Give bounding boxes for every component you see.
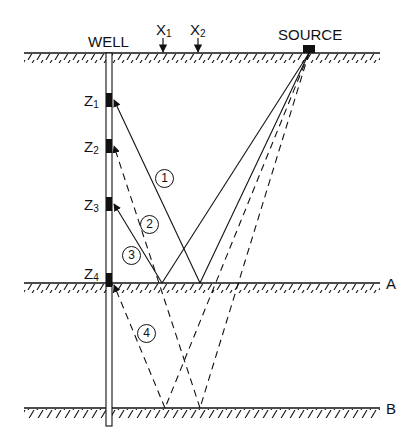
- receiver-z1: [106, 93, 112, 107]
- z2-label: Z2: [84, 139, 99, 156]
- ground-surface: [24, 53, 380, 63]
- ray-3: [114, 53, 309, 283]
- receiver-z2: [106, 139, 112, 153]
- z1-label: Z1: [84, 93, 99, 110]
- source-label: SOURCE: [278, 27, 342, 42]
- reflector-a-label: A: [386, 276, 396, 291]
- receiver-z4: [106, 273, 112, 287]
- ray-3-marker: 3: [122, 246, 141, 265]
- well-label: WELL: [88, 34, 129, 49]
- ray-diagram-canvas: [0, 0, 414, 446]
- receiver-z3: [106, 197, 112, 211]
- z4-label: Z4: [84, 266, 99, 283]
- ray-1-marker: 1: [155, 169, 174, 188]
- reflector-a: [24, 283, 380, 293]
- source-marker: [303, 45, 315, 53]
- reflector-b-label: B: [386, 401, 396, 416]
- ray-2-marker: 2: [140, 215, 159, 234]
- z3-label: Z3: [84, 197, 99, 214]
- x2-label: X2: [190, 22, 206, 39]
- x1-label: X1: [156, 22, 172, 39]
- ray-4-marker: 4: [137, 324, 156, 343]
- ray-1: [114, 53, 309, 283]
- well-bore: [106, 53, 112, 426]
- reflector-b: [24, 408, 380, 418]
